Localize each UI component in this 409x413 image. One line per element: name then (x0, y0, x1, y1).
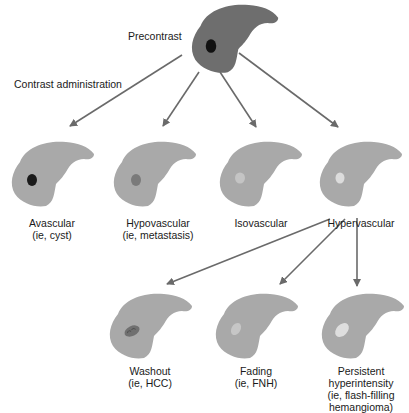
avascular-name: Avascular (10, 217, 94, 229)
washout-label: Washout (ie, HCC) (108, 365, 192, 389)
precontrast-liver (192, 5, 278, 73)
arrow-to-hypervascular (239, 53, 338, 127)
arrow-to-avascular (70, 55, 182, 126)
persistent-line2: hyperintensity (316, 377, 406, 389)
hypervascular-label: Hypervascular (316, 217, 406, 229)
persistent-line1: Persistent (316, 365, 406, 377)
washout-liver (110, 294, 192, 359)
arrow-to-hypovascular (163, 72, 199, 126)
precontrast-lesion (206, 39, 217, 53)
avascular-example: (ie, cyst) (10, 229, 94, 241)
hypervascular-liver (320, 142, 402, 207)
isovascular-liver (220, 142, 302, 207)
contrast-administration-text: Contrast administration (14, 78, 122, 90)
isovascular-name: Isovascular (218, 217, 304, 229)
contrast-administration-label: Contrast administration (14, 78, 122, 90)
isovascular-label: Isovascular (218, 217, 304, 229)
precontrast-label: Precontrast (128, 30, 182, 42)
hypovascular-liver (114, 142, 196, 207)
washout-name: Washout (108, 365, 192, 377)
enhancement-diagram (0, 0, 409, 413)
avascular-label: Avascular (ie, cyst) (10, 217, 94, 241)
hypovascular-example: (ie, metastasis) (108, 229, 208, 241)
avascular-liver (12, 142, 94, 207)
arrow-to-isovascular (220, 72, 256, 127)
hypovascular-label: Hypovascular (ie, metastasis) (108, 217, 208, 241)
fading-label: Fading (ie, FNH) (214, 365, 298, 389)
persistent-line3: (ie, flash-filling (316, 389, 406, 401)
hypervascular-name: Hypervascular (316, 217, 406, 229)
hypovascular-name: Hypovascular (108, 217, 208, 229)
persistent-liver (322, 294, 404, 359)
hypervascular-lesion (336, 173, 345, 184)
fading-liver (216, 294, 298, 359)
hypovascular-lesion (131, 174, 141, 186)
fading-name: Fading (214, 365, 298, 377)
persistent-line4: hemangioma) (316, 401, 406, 413)
avascular-lesion (27, 174, 37, 186)
washout-example: (ie, HCC) (108, 377, 192, 389)
precontrast-text: Precontrast (128, 30, 182, 42)
fading-example: (ie, FNH) (214, 377, 298, 389)
isovascular-lesion (235, 173, 245, 184)
persistent-label: Persistent hyperintensity (ie, flash-fil… (316, 365, 406, 413)
